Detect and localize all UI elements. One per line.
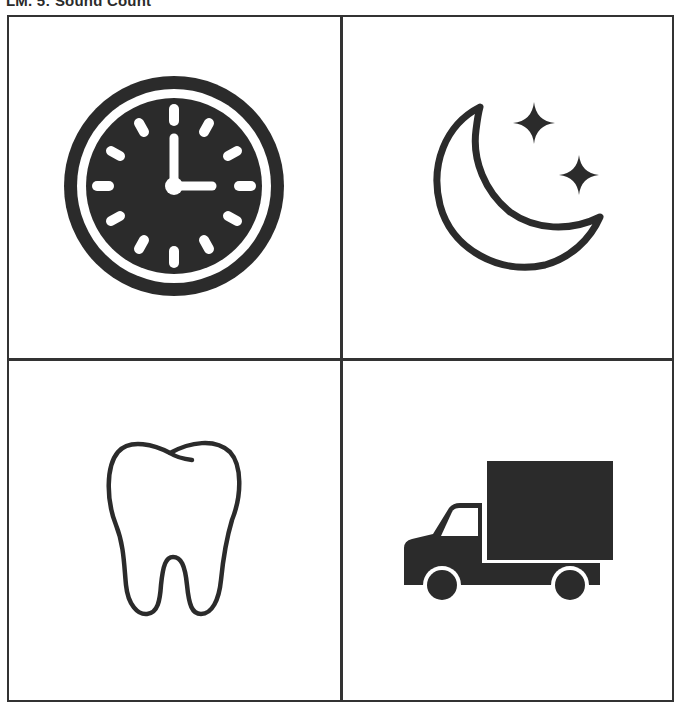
moon-stars-icon (437, 102, 600, 267)
icon-layer (0, 0, 677, 707)
truck-cargo-box (487, 461, 613, 560)
truck-icon (404, 461, 613, 604)
front-wheel (427, 570, 457, 600)
tooth-icon (109, 443, 240, 614)
rear-wheel (555, 570, 585, 600)
clock-icon (64, 76, 284, 296)
star-small-icon (559, 155, 599, 195)
star-large-icon (513, 102, 555, 144)
